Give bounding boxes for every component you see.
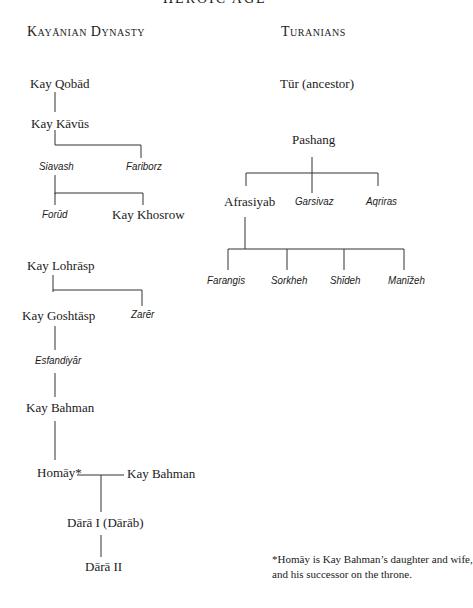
member-kay-kavus: Kay Kāvūs: [31, 116, 89, 132]
member-garsivaz: Garsivaz: [295, 195, 334, 207]
member-kay-khosrow: Kay Khosrow: [112, 207, 185, 223]
member-siavash: Siavash: [39, 160, 74, 172]
member-forud: Forūd: [42, 208, 68, 220]
footnote-line-1: *Homāy is Kay Bahman’s daughter and wife…: [272, 552, 473, 567]
member-sorkheh: Sorkheh: [271, 274, 307, 286]
member-kay-bahman-spouse: Kay Bahman: [127, 466, 195, 482]
member-esfandiyar: Esfandiyār: [35, 354, 81, 366]
member-homay: Homāy*: [37, 465, 82, 481]
footnote: *Homāy is Kay Bahman’s daughter and wife…: [272, 552, 473, 582]
member-fariborz: Fariborz: [126, 160, 162, 172]
member-kay-bahman: Kay Bahman: [26, 400, 94, 416]
member-farangis: Farangis: [207, 274, 245, 286]
member-dara-2: Dārā II: [85, 559, 122, 575]
member-shideh: Shīdeh: [330, 274, 360, 286]
member-dara-1: Dārā I (Dārāb): [67, 515, 144, 531]
member-pashang: Pashang: [292, 132, 335, 148]
member-zarer: Zarēr: [131, 308, 154, 320]
member-tur: Tūr (ancestor): [280, 76, 354, 92]
member-manizheh: Manīžeh: [388, 274, 425, 286]
member-kay-lohrasp: Kay Lohrāsp: [27, 258, 95, 274]
member-kay-qobad: Kay Qobād: [30, 76, 90, 92]
footnote-line-2: and his successor on the throne.: [272, 567, 473, 582]
member-aqriras: Aqriras: [366, 195, 397, 207]
member-afrasiyab: Afrasiyab: [224, 194, 275, 210]
member-kay-goshtasp: Kay Goshtāsp: [22, 308, 95, 324]
